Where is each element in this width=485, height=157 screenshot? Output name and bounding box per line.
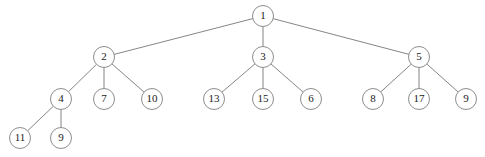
tree-node: 4: [51, 89, 72, 110]
tree-node: 1: [253, 6, 274, 27]
tree-node: 9: [51, 128, 72, 149]
tree-node: 8: [363, 89, 384, 110]
node-label: 13: [209, 92, 221, 104]
node-label: 10: [147, 92, 159, 104]
tree-diagram-canvas: 12354710131568179119: [0, 0, 485, 157]
tree-node: 9: [456, 89, 477, 110]
node-label: 9: [463, 92, 469, 104]
tree-edge: [114, 19, 253, 55]
node-label: 6: [308, 92, 314, 104]
tree-edge: [69, 64, 97, 91]
tree-diagram: 12354710131568179119: [0, 0, 485, 157]
tree-node: 15: [253, 89, 274, 110]
node-label: 2: [101, 50, 107, 62]
tree-edge: [112, 64, 144, 92]
tree-edge: [271, 64, 303, 92]
tree-edge: [381, 64, 412, 92]
node-label: 3: [260, 50, 266, 62]
node-layer: 12354710131568179119: [10, 6, 477, 149]
tree-node: 3: [253, 47, 274, 68]
tree-node: 5: [409, 47, 430, 68]
tree-node: 13: [204, 89, 225, 110]
node-label: 8: [370, 92, 376, 104]
node-label: 11: [15, 131, 26, 143]
node-label: 7: [101, 92, 107, 104]
node-label: 15: [258, 92, 270, 104]
tree-node: 6: [301, 89, 322, 110]
tree-node: 11: [10, 128, 31, 149]
node-label: 17: [414, 92, 426, 104]
node-label: 4: [58, 92, 64, 104]
node-label: 1: [260, 9, 266, 21]
tree-edge: [222, 64, 255, 92]
tree-edge: [273, 19, 409, 55]
tree-node: 10: [142, 89, 163, 110]
tree-edge: [427, 64, 458, 92]
node-label: 5: [416, 50, 422, 62]
tree-node: 7: [94, 89, 115, 110]
edge-layer: [28, 19, 459, 131]
tree-edge: [28, 106, 54, 131]
node-label: 9: [58, 131, 64, 143]
tree-node: 17: [409, 89, 430, 110]
tree-node: 2: [94, 47, 115, 68]
